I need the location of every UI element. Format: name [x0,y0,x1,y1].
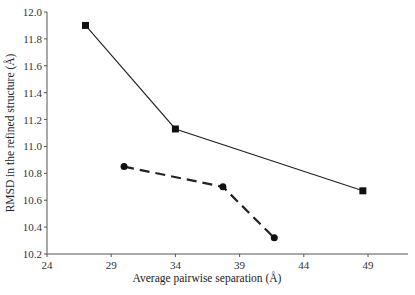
x-tick-label: 49 [363,259,375,271]
x-tick-label: 34 [170,259,182,271]
circle-marker [271,234,278,241]
y-tick-label: 11.8 [23,33,42,45]
y-tick-label: 10.2 [23,248,42,260]
y-tick-label: 11.0 [23,140,42,152]
x-tick-label: 44 [298,259,310,271]
y-tick-label: 11.6 [23,60,42,72]
square-marker [82,22,89,29]
circle-marker [121,163,128,170]
y-tick-label: 10.6 [23,194,43,206]
series-layer [82,22,366,241]
y-tick-label: 11.2 [23,114,42,126]
x-tick-label: 24 [42,259,54,271]
x-tick-label: 39 [234,259,246,271]
x-axis-title: Average pairwise separation (Å) [133,271,282,285]
square-marker [172,125,179,132]
x-tick-label: 29 [106,259,118,271]
y-axis-title: RMSD in the refined structure (Å) [3,53,17,212]
y-tick-label: 11.4 [23,87,42,99]
series-line [124,167,274,238]
series-circle [121,163,278,241]
line-chart: 10.210.410.610.811.011.211.411.611.812.0… [0,0,415,295]
square-marker [359,187,366,194]
y-tick-label: 10.8 [23,167,43,179]
axes: 10.210.410.610.811.011.211.411.611.812.0… [23,6,408,271]
y-tick-label: 10.4 [23,221,43,233]
y-tick-label: 12.0 [23,6,43,18]
circle-marker [219,183,226,190]
